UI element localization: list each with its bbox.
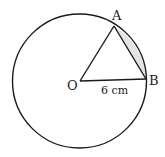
circle-diagram: O A B 6 cm [0, 0, 165, 157]
circle [13, 14, 147, 148]
radius-length-label: 6 cm [101, 84, 129, 97]
chord-ab [114, 26, 146, 79]
point-label-o: O [67, 78, 78, 93]
radius-oa [80, 26, 114, 81]
radius-ob [80, 79, 146, 81]
point-label-b: B [149, 73, 159, 88]
point-label-a: A [111, 8, 122, 23]
